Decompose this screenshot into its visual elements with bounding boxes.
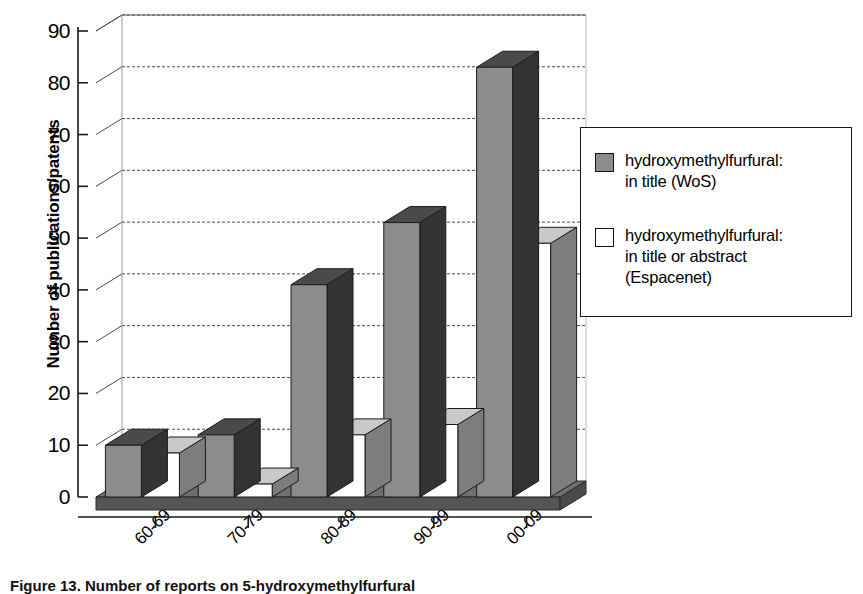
legend-swatch-espacenet bbox=[595, 228, 614, 247]
legend-label-espacenet: hydroxymethylfurfural: in title or abstr… bbox=[625, 225, 783, 288]
bar-90-99-series0 bbox=[384, 207, 446, 497]
bar-00-09-series0 bbox=[477, 51, 539, 497]
floor-front bbox=[96, 497, 560, 510]
legend-entry-espacenet: hydroxymethylfurfural: in title or abstr… bbox=[595, 225, 783, 288]
bar-80-89-series0 bbox=[291, 269, 353, 497]
legend-entry-wos: hydroxymethylfurfural: in title (WoS) bbox=[595, 150, 783, 192]
legend-label-wos: hydroxymethylfurfural: in title (WoS) bbox=[625, 150, 783, 192]
legend: hydroxymethylfurfural: in title (WoS) hy… bbox=[580, 127, 852, 317]
left-wall bbox=[96, 15, 122, 497]
figure-caption: Figure 13. Number of reports on 5-hydrox… bbox=[10, 577, 415, 594]
legend-swatch-wos bbox=[595, 153, 614, 172]
bar-70-79-series0 bbox=[198, 419, 260, 497]
bar-60-69-series0 bbox=[105, 429, 167, 497]
